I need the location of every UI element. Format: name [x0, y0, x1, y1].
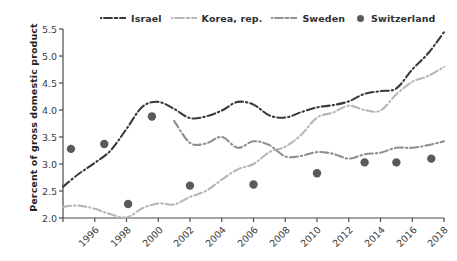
scatter-point-switzerland — [392, 158, 400, 166]
scatter-points-layer — [67, 112, 436, 208]
chart-container: Israel Korea, rep. Sweden Switzerland — [0, 0, 457, 261]
scatter-point-switzerland — [67, 145, 75, 153]
scatter-point-switzerland — [186, 181, 194, 189]
axis-lines — [63, 29, 444, 218]
data-series-layer — [63, 32, 444, 217]
scatter-point-switzerland — [427, 154, 435, 162]
scatter-point-switzerland — [148, 112, 156, 120]
scatter-point-switzerland — [360, 158, 368, 166]
plot-area — [0, 0, 457, 261]
scatter-point-switzerland — [124, 200, 132, 208]
x-axis-ticks — [63, 218, 444, 222]
scatter-point-switzerland — [313, 169, 321, 177]
scatter-point-switzerland — [100, 140, 108, 148]
scatter-point-switzerland — [249, 180, 257, 188]
